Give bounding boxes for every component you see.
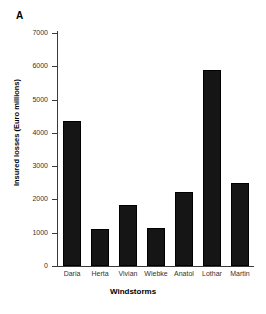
figure-panel-a: A 01000200030004000500060007000 DariaHer… [0,0,266,314]
bar [231,183,249,266]
bar [63,121,81,266]
x-axis-tick-label: Daria [58,270,86,277]
x-axis-tick-label: Anatol [170,270,198,277]
x-axis-title: Windstorms [0,287,266,296]
y-axis-title: Insured losses (Euro millions) [12,43,21,223]
y-axis-tick-label: 7000 [8,29,48,36]
bar [203,70,221,266]
x-axis-tick-label: Vivian [114,270,142,277]
x-axis-line [52,266,254,267]
bar [175,192,193,266]
y-axis-tick-label: 1000 [8,229,48,236]
bar [91,229,109,266]
x-axis-tick-label: Martin [226,270,254,277]
bar [119,205,137,266]
x-axis-tick-label: Herta [86,270,114,277]
x-axis-tick-label: Lothar [198,270,226,277]
bar [147,228,165,266]
plot-area [58,33,254,266]
panel-label: A [16,10,23,21]
x-axis-tick-label: Wiebke [142,270,170,277]
y-axis-tick [52,266,58,267]
y-axis-tick-label: 0 [8,262,48,269]
